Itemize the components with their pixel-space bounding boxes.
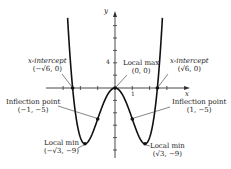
inflection-right-annotation: Inflection point (1, −5) bbox=[172, 98, 226, 114]
graph-canvas bbox=[0, 0, 231, 169]
y-axis-label: y bbox=[104, 7, 108, 15]
annotation-title: Inflection point bbox=[172, 98, 226, 106]
y-axis-arrow-icon bbox=[113, 11, 117, 17]
annotation-title: x-intercept bbox=[28, 57, 67, 65]
x-intercept-left-annotation: x-intercept (−√6, 0) bbox=[28, 57, 67, 73]
y-tick-label: 4 bbox=[106, 58, 110, 66]
annotation-title: Local max bbox=[123, 59, 159, 67]
x-axis-label: x bbox=[185, 90, 189, 98]
annotation-coords: (−√3, −9) bbox=[44, 147, 79, 155]
x-intercept-right-annotation: x-intercept (√6, 0) bbox=[170, 57, 209, 73]
inflection-left-point bbox=[96, 117, 100, 121]
inflection-right-point bbox=[131, 117, 135, 121]
x-intercept-left-point bbox=[71, 86, 75, 90]
annotation-coords: (0, 0) bbox=[123, 67, 159, 75]
annotation-coords: (√3, −9) bbox=[150, 150, 185, 158]
annotation-title: x-intercept bbox=[170, 57, 209, 65]
annotation-coords: (−√6, 0) bbox=[28, 65, 67, 73]
x-intercept-right-point bbox=[156, 86, 160, 90]
local-max-annotation: Local max (0, 0) bbox=[123, 59, 159, 75]
local-min-left-annotation: Local min (−√3, −9) bbox=[44, 139, 79, 155]
leader-lines bbox=[58, 74, 170, 148]
annotation-title: Inflection point bbox=[6, 98, 60, 106]
annotation-coords: (√6, 0) bbox=[170, 65, 209, 73]
local-min-right-annotation: Local min (√3, −9) bbox=[150, 142, 185, 158]
annotation-coords: (1, −5) bbox=[172, 106, 226, 114]
annotation-title: Local min bbox=[44, 139, 79, 147]
y-axis bbox=[113, 11, 117, 158]
inflection-left-annotation: Inflection point (−1, −5) bbox=[6, 98, 60, 114]
annotation-title: Local min bbox=[150, 142, 185, 150]
function-graph-figure: y x 4 1 x-intercept (−√6, 0) x-intercept… bbox=[0, 0, 231, 169]
x-tick-label: 1 bbox=[131, 90, 135, 98]
annotation-coords: (−1, −5) bbox=[6, 106, 60, 114]
